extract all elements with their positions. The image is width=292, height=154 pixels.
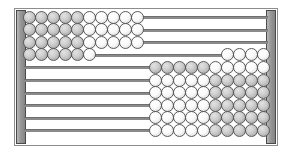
abacus-bead[interactable] bbox=[257, 99, 270, 112]
abacus-bead[interactable] bbox=[131, 36, 144, 49]
abacus-widget bbox=[0, 0, 292, 154]
abacus-bead[interactable] bbox=[131, 23, 144, 36]
abacus-bead[interactable] bbox=[257, 61, 270, 74]
abacus-bead[interactable] bbox=[257, 74, 270, 87]
abacus-rods-layer bbox=[0, 0, 292, 154]
abacus-bead[interactable] bbox=[257, 111, 270, 124]
abacus-bead[interactable] bbox=[83, 48, 96, 61]
abacus-bead[interactable] bbox=[257, 48, 270, 61]
bead-group-right[interactable] bbox=[149, 123, 269, 137]
abacus-bead[interactable] bbox=[257, 124, 270, 137]
abacus-bead[interactable] bbox=[131, 11, 144, 24]
bead-group-left[interactable] bbox=[23, 48, 95, 62]
abacus-bead[interactable] bbox=[257, 86, 270, 99]
